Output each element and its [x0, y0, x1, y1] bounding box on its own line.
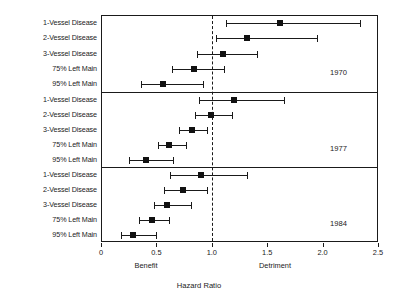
row-label: 95% Left Main: [0, 231, 97, 239]
forest-plot-figure: 1-Vessel Disease2-Vessel Disease3-Vessel…: [0, 0, 398, 297]
point-estimate-marker: [231, 97, 237, 103]
confidence-interval-line: [172, 69, 224, 70]
row-label: 1-Vessel Disease: [0, 171, 97, 179]
point-estimate-marker: [220, 51, 226, 57]
ci-cap-lower: [195, 112, 196, 119]
x-axis-tick: [156, 243, 157, 247]
point-estimate-marker: [277, 20, 283, 26]
ci-cap-upper: [224, 66, 225, 73]
x-axis-tick-label: 2.0: [308, 249, 338, 257]
row-label: 75% Left Main: [0, 141, 97, 149]
ci-cap-upper: [186, 142, 187, 149]
panel-year-label: 1977: [330, 145, 347, 153]
row-label: 95% Left Main: [0, 156, 97, 164]
ci-cap-upper: [207, 127, 208, 134]
detriment-label: Detriment: [240, 262, 310, 270]
ci-cap-upper: [191, 202, 192, 209]
ci-cap-upper: [317, 35, 318, 42]
ci-cap-upper: [173, 157, 174, 164]
confidence-interval-line: [197, 54, 257, 55]
row-label: 3-Vessel Disease: [0, 50, 97, 58]
ci-cap-lower: [164, 187, 165, 194]
ci-cap-lower: [170, 172, 171, 179]
x-axis-title: Hazard Ratio: [0, 281, 398, 290]
ci-cap-upper: [284, 97, 285, 104]
row-label: 3-Vessel Disease: [0, 126, 97, 134]
point-estimate-marker: [164, 202, 170, 208]
confidence-interval-line: [158, 145, 187, 146]
row-label: 75% Left Main: [0, 65, 97, 73]
x-axis-tick: [378, 243, 379, 247]
ci-cap-lower: [199, 97, 200, 104]
x-axis-tick-label: 0: [86, 249, 116, 257]
x-axis-tick: [267, 243, 268, 247]
row-label: 95% Left Main: [0, 80, 97, 88]
row-label: 3-Vessel Disease: [0, 201, 97, 209]
ci-cap-upper: [156, 232, 157, 239]
ci-cap-lower: [158, 142, 159, 149]
x-axis-tick-label: 1.0: [197, 249, 227, 257]
confidence-interval-line: [129, 160, 173, 161]
x-axis-tick: [323, 243, 324, 247]
ci-cap-lower: [154, 202, 155, 209]
point-estimate-marker: [166, 142, 172, 148]
point-estimate-marker: [198, 172, 204, 178]
plot-frame: [101, 15, 378, 242]
ci-cap-lower: [121, 232, 122, 239]
point-estimate-marker: [143, 157, 149, 163]
row-label: 1-Vessel Disease: [0, 19, 97, 27]
point-estimate-marker: [191, 66, 197, 72]
point-estimate-marker: [160, 81, 166, 87]
row-label: 2-Vessel Disease: [0, 111, 97, 119]
ci-cap-upper: [169, 217, 170, 224]
ci-cap-lower: [179, 127, 180, 134]
row-label: 75% Left Main: [0, 216, 97, 224]
x-axis-tick-label: 0.5: [141, 249, 171, 257]
confidence-interval-line: [154, 205, 191, 206]
confidence-interval-line: [216, 38, 317, 39]
ci-cap-upper: [203, 81, 204, 88]
x-axis-tick: [212, 243, 213, 247]
ci-cap-upper: [247, 172, 248, 179]
ci-cap-lower: [216, 35, 217, 42]
ci-cap-lower: [141, 81, 142, 88]
confidence-interval-line: [121, 235, 156, 236]
panel-divider-1: [101, 92, 378, 93]
ci-cap-upper: [360, 20, 361, 27]
x-axis-tick-label: 1.5: [252, 249, 282, 257]
point-estimate-marker: [189, 127, 195, 133]
panel-year-label: 1970: [330, 69, 347, 77]
point-estimate-marker: [130, 232, 136, 238]
row-label: 1-Vessel Disease: [0, 96, 97, 104]
confidence-interval-line: [226, 23, 360, 24]
ci-cap-lower: [129, 157, 130, 164]
point-estimate-marker: [244, 35, 250, 41]
row-label: 2-Vessel Disease: [0, 34, 97, 42]
ci-cap-upper: [207, 187, 208, 194]
point-estimate-marker: [149, 217, 155, 223]
panel-year-label: 1984: [330, 220, 347, 228]
x-axis-tick: [101, 243, 102, 247]
ci-cap-lower: [139, 217, 140, 224]
ci-cap-lower: [226, 20, 227, 27]
panel-divider-2: [101, 167, 378, 168]
reference-line: [212, 16, 213, 241]
confidence-interval-line: [141, 84, 203, 85]
point-estimate-marker: [180, 187, 186, 193]
row-label: 2-Vessel Disease: [0, 186, 97, 194]
ci-cap-lower: [172, 66, 173, 73]
ci-cap-lower: [197, 51, 198, 58]
confidence-interval-line: [170, 175, 248, 176]
ci-cap-upper: [232, 112, 233, 119]
ci-cap-upper: [257, 51, 258, 58]
benefit-label: Benefit: [116, 262, 176, 270]
x-axis-tick-label: 2.5: [363, 249, 393, 257]
